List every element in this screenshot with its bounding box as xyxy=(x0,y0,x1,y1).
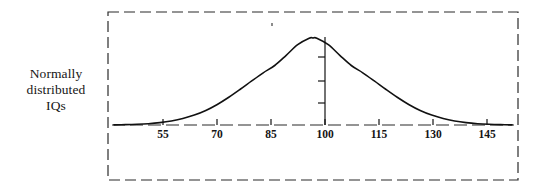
x-tick-label-145: 145 xyxy=(478,128,496,140)
bell-curve-path xyxy=(114,38,512,125)
x-tick-label-55: 55 xyxy=(157,128,169,140)
scan-artifact-speck xyxy=(271,23,273,26)
caption-line-1: Normally xyxy=(8,66,104,82)
caption-line-2: distributed xyxy=(8,82,104,98)
normal-distribution-chart: 55 70 85 100 115 130 145 xyxy=(107,11,519,181)
plot-frame: 55 70 85 100 115 130 145 xyxy=(107,11,519,181)
figure-root: Normally distributed IQs 55 70 85 100 xyxy=(0,0,539,194)
figure-caption: Normally distributed IQs xyxy=(8,66,104,114)
mean-line-ticks xyxy=(318,57,325,103)
x-tick-label-85: 85 xyxy=(265,128,277,140)
x-tick-label-115: 115 xyxy=(371,128,388,140)
caption-line-3: IQs xyxy=(8,98,104,114)
x-tick-label-100: 100 xyxy=(316,128,334,140)
x-tick-label-130: 130 xyxy=(424,128,442,140)
x-axis-tick-labels: 55 70 85 100 115 130 145 xyxy=(157,128,496,140)
x-tick-label-70: 70 xyxy=(211,128,223,140)
